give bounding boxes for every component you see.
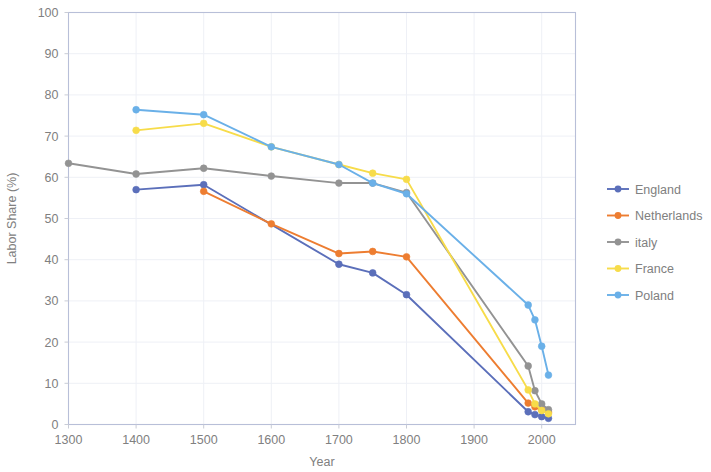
y-axis-tick-label: 80 (45, 88, 59, 102)
legend-item-france[interactable]: France (607, 262, 674, 276)
data-point-marker (268, 173, 275, 180)
data-point-marker (532, 387, 539, 394)
legend-label: England (635, 183, 681, 197)
data-point-marker (545, 372, 552, 379)
legend-item-netherlands[interactable]: Netherlands (607, 209, 702, 223)
series-line (69, 163, 549, 409)
data-point-marker (525, 408, 532, 415)
data-point-marker (65, 160, 72, 167)
legend-item-poland[interactable]: Poland (607, 289, 674, 303)
data-point-marker (403, 291, 410, 298)
x-axis-tick-label: 1800 (393, 433, 421, 447)
data-series-layer (65, 106, 552, 421)
x-axis-tick-labels: 13001400150016001700180019002000 (55, 425, 556, 447)
data-point-marker (538, 343, 545, 350)
series-line (204, 191, 549, 412)
data-point-marker (403, 176, 410, 183)
legend: EnglandNetherlandsitalyFrancePoland (607, 183, 702, 303)
data-point-marker (200, 188, 207, 195)
data-point-marker (200, 120, 207, 127)
y-axis-tick-label: 10 (45, 377, 59, 391)
chart-container: 0102030405060708090100 13001400150016001… (0, 0, 711, 472)
series-poland (133, 106, 552, 378)
data-point-marker (133, 127, 140, 134)
data-point-marker (403, 253, 410, 260)
y-axis-tick-label: 50 (45, 212, 59, 226)
data-point-marker (268, 220, 275, 227)
x-axis-tick-label: 2000 (528, 433, 556, 447)
data-point-marker (268, 143, 275, 150)
data-point-marker (525, 363, 532, 370)
data-point-marker (525, 400, 532, 407)
legend-label: Poland (635, 289, 674, 303)
legend-marker-icon (615, 292, 622, 299)
y-axis-tick-label: 40 (45, 253, 59, 267)
data-point-marker (525, 386, 532, 393)
data-point-marker (369, 269, 376, 276)
data-point-marker (538, 413, 545, 420)
data-point-marker (532, 316, 539, 323)
legend-label: France (635, 262, 674, 276)
data-point-marker (369, 248, 376, 255)
legend-item-england[interactable]: England (607, 183, 681, 197)
y-axis-tick-label: 30 (45, 294, 59, 308)
data-point-marker (133, 106, 140, 113)
data-point-marker (200, 181, 207, 188)
data-point-marker (200, 111, 207, 118)
y-axis-tick-label: 20 (45, 336, 59, 350)
data-point-marker (538, 407, 545, 414)
legend-label: italy (635, 236, 658, 250)
data-point-marker (525, 302, 532, 309)
series-italy (65, 160, 552, 413)
labor-share-line-chart: 0102030405060708090100 13001400150016001… (0, 0, 711, 472)
data-point-marker (538, 401, 545, 408)
series-england (133, 181, 552, 421)
y-axis-tick-label: 90 (45, 47, 59, 61)
x-axis-tick-label: 1600 (257, 433, 285, 447)
data-point-marker (403, 190, 410, 197)
data-point-marker (369, 170, 376, 177)
x-axis-tick-label: 1400 (122, 433, 150, 447)
y-axis-tick-labels: 0102030405060708090100 (38, 6, 69, 432)
series-line (136, 110, 548, 375)
legend-label: Netherlands (635, 209, 702, 223)
x-axis-tick-label: 1300 (55, 433, 83, 447)
x-axis-tick-label: 1700 (325, 433, 353, 447)
data-point-marker (133, 171, 140, 178)
series-netherlands (200, 188, 552, 416)
x-axis-tick-label: 1900 (460, 433, 488, 447)
data-point-marker (336, 261, 343, 268)
data-point-marker (336, 180, 343, 187)
y-axis-tick-label: 60 (45, 171, 59, 185)
x-axis-tick-label: 1500 (190, 433, 218, 447)
y-axis-tick-label: 0 (52, 418, 59, 432)
data-point-marker (336, 161, 343, 168)
y-axis-tick-label: 100 (38, 6, 59, 20)
data-point-marker (532, 411, 539, 418)
data-point-marker (532, 401, 539, 408)
legend-marker-icon (615, 265, 622, 272)
legend-marker-icon (615, 186, 622, 193)
legend-item-italy[interactable]: italy (607, 236, 658, 250)
data-point-marker (336, 250, 343, 257)
y-axis-title: Labor Share (%) (5, 173, 19, 265)
gridlines (69, 13, 576, 425)
y-axis-tick-label: 70 (45, 130, 59, 144)
data-point-marker (369, 180, 376, 187)
x-axis-title: Year (309, 455, 334, 469)
data-point-marker (133, 186, 140, 193)
data-point-marker (200, 165, 207, 172)
legend-marker-icon (615, 239, 622, 246)
data-point-marker (545, 410, 552, 417)
legend-marker-icon (615, 212, 622, 219)
